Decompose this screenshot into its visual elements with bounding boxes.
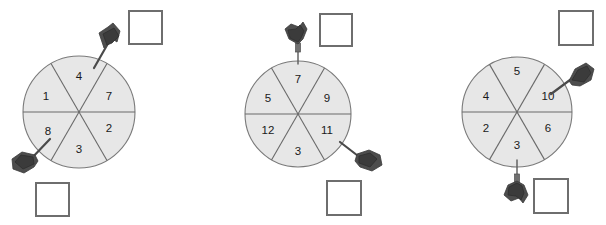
spinner-1-sector-label-lower-left: 8	[45, 125, 51, 137]
spinner-problem-2: 7 9 11 3 12 5	[202, 0, 404, 225]
spinner-2-sector-label-top: 7	[295, 73, 301, 85]
spinner-1-sector-label-lower-right: 2	[106, 122, 112, 134]
spinner-3-sector-label-top: 5	[514, 65, 520, 77]
spinner-2-graphic: 7 9 11 3 12 5	[202, 0, 404, 225]
spinner-2-sector-label-lower-left: 12	[262, 124, 275, 136]
spinner-2-sector-label-upper-right: 9	[324, 92, 330, 104]
spinner-3-sector-label-bottom: 3	[514, 139, 520, 151]
spinner-3-sector-label-lower-left: 2	[483, 122, 489, 134]
spinner-1-graphic: 4 7 2 3 8 1	[0, 0, 202, 225]
spinner-2-dart-icon-top	[285, 22, 307, 64]
spinner-2-answer-box-top[interactable]	[320, 14, 352, 46]
spinner-1-answer-box-top[interactable]	[129, 11, 162, 44]
spinner-2-sector-label-bottom: 3	[295, 145, 301, 157]
spinner-3-sector-label-upper-left: 4	[483, 90, 490, 102]
spinner-3-sector-label-lower-right: 6	[545, 122, 551, 134]
spinner-1-sector-label-upper-right: 7	[106, 90, 112, 102]
spinner-1-answer-box-bottom[interactable]	[36, 183, 69, 216]
spinner-problem-3: 5 10 6 3 2 4	[404, 0, 606, 225]
spinner-1-sector-label-upper-left: 1	[43, 90, 49, 102]
spinner-3-graphic: 5 10 6 3 2 4	[404, 0, 606, 225]
spinner-2-sector-label-upper-left: 5	[265, 92, 271, 104]
spinner-3-answer-box-bottom[interactable]	[534, 179, 568, 213]
spinner-problem-1: 4 7 2 3 8 1	[0, 0, 202, 225]
spinner-1-dart-icon-top	[94, 23, 120, 68]
spinner-3-answer-box-top[interactable]	[559, 11, 593, 45]
spinner-2-sector-label-lower-right: 11	[321, 124, 333, 136]
spinner-1-sector-label-bottom: 3	[76, 143, 82, 155]
worksheet-canvas: 4 7 2 3 8 1	[0, 0, 606, 225]
spinner-1-sector-label-top: 4	[76, 70, 83, 82]
spinner-2-dart-icon-bottom-right	[340, 142, 382, 171]
spinner-2-answer-box-bottom[interactable]	[327, 181, 361, 215]
